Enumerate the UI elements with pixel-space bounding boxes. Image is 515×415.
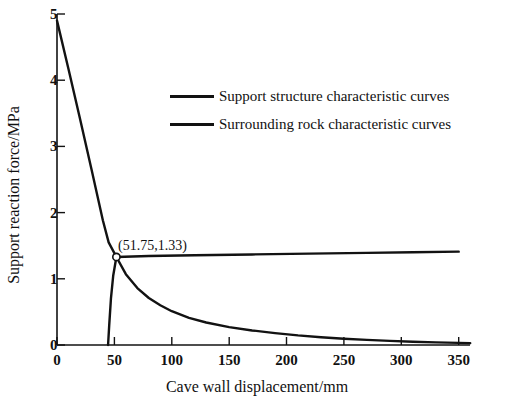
y-tick-label-3: 3 [50,138,58,155]
y-axis-title: Support reaction force/MPa [5,106,23,284]
legend-label-support: Support structure characteristic curves [219,88,449,105]
legend-line-icon-rock [170,123,214,126]
y-tick-label-2: 2 [50,204,58,221]
legend-line-icon-support [170,95,214,98]
x-tick-label-50: 50 [107,352,122,369]
y-tick-label-0: 0 [50,337,58,354]
plot-area [0,0,515,415]
intersection-point-marker-icon [113,253,120,260]
chart-figure: 0 1 2 3 4 5 0 50 100 150 200 250 300 350… [0,0,515,415]
series-line-support-structure [108,252,459,345]
x-tick-label-350: 350 [447,352,470,369]
y-axis-ticks [57,14,65,345]
legend-item-support-structure: Support structure characteristic curves [170,88,449,105]
y-tick-label-1: 1 [50,270,58,287]
data-series-group [57,21,470,345]
x-tick-label-150: 150 [218,352,241,369]
x-tick-label-100: 100 [161,352,184,369]
x-tick-label-250: 250 [333,352,356,369]
intersection-annotation-label: (51.75,1.33) [118,238,187,254]
x-tick-label-0: 0 [53,352,61,369]
intersection-marker [113,253,120,260]
x-tick-label-200: 200 [275,352,298,369]
legend-item-surrounding-rock: Surrounding rock characteristic curves [170,116,451,133]
x-axis-title: Cave wall displacement/mm [166,378,348,396]
series-line-surrounding-rock [57,21,470,344]
x-tick-label-300: 300 [390,352,413,369]
legend-label-rock: Surrounding rock characteristic curves [219,116,451,133]
y-tick-label-4: 4 [50,72,58,89]
y-tick-label-5: 5 [50,6,58,23]
